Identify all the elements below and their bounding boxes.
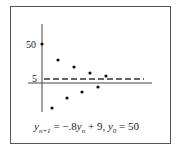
- caption-sub: n+1: [39, 127, 51, 135]
- point-7: [96, 85, 99, 88]
- caption-text: + 9,: [85, 120, 108, 132]
- point-8: [104, 74, 107, 77]
- point-3: [65, 96, 68, 99]
- data-points: [40, 42, 107, 109]
- point-6: [88, 71, 91, 74]
- point-0: [40, 42, 43, 45]
- point-5: [80, 90, 83, 93]
- y-tick-50: 50: [26, 39, 36, 50]
- point-4: [72, 65, 75, 68]
- caption-text: = −.8: [51, 120, 77, 132]
- chart-caption: yn+1 = −.8yn + 9, y0 = 50: [34, 120, 139, 135]
- y-tick-5: 5: [32, 73, 37, 84]
- point-1: [50, 106, 53, 109]
- caption-text: = 50: [116, 120, 139, 132]
- point-2: [56, 58, 59, 61]
